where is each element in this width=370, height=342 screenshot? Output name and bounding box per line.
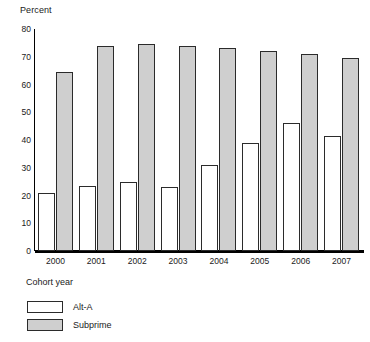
y-tick-label: 30	[9, 163, 31, 173]
x-tick-label-2001: 2001	[76, 256, 117, 270]
bar-group-2001	[76, 29, 117, 251]
bar-alt-a-2007[interactable]	[324, 136, 341, 251]
y-tick-label: 80	[9, 24, 31, 34]
legend-label: Alt-A	[73, 302, 93, 312]
bar-subprime-2005[interactable]	[260, 51, 277, 251]
bar-group-2000	[35, 29, 76, 251]
bar-subprime-2001[interactable]	[97, 46, 114, 251]
legend-item-subprime[interactable]: Subprime	[27, 317, 112, 333]
y-tick-label: 10	[9, 218, 31, 228]
bar-group-2007	[321, 29, 362, 251]
bar-subprime-2002[interactable]	[138, 44, 155, 251]
y-tick-label: 50	[9, 107, 31, 117]
x-axis-ticks: 20002001200220032004200520062007	[35, 256, 362, 270]
bar-group-2004	[199, 29, 240, 251]
bar-subprime-2000[interactable]	[56, 72, 73, 251]
bar-groups	[35, 29, 362, 251]
y-tick-label: 70	[9, 52, 31, 62]
bar-group-2003	[158, 29, 199, 251]
bar-subprime-2004[interactable]	[219, 48, 236, 251]
bar-alt-a-2004[interactable]	[201, 165, 218, 251]
legend-swatch-alt-a	[27, 301, 63, 313]
x-tick-label-2004: 2004	[199, 256, 240, 270]
bar-alt-a-2001[interactable]	[79, 186, 96, 251]
bar-subprime-2007[interactable]	[342, 58, 359, 251]
legend-swatch-subprime	[27, 319, 63, 331]
legend-label: Subprime	[73, 320, 112, 330]
x-tick-label-2006: 2006	[280, 256, 321, 270]
bar-alt-a-2006[interactable]	[283, 123, 300, 251]
y-tick-label: 60	[9, 80, 31, 90]
x-tick-label-2002: 2002	[117, 256, 158, 270]
x-axis-title: Cohort year	[26, 277, 73, 287]
legend-item-alt-a[interactable]: Alt-A	[27, 299, 112, 315]
bar-group-2002	[117, 29, 158, 251]
y-tick-label: 40	[9, 135, 31, 145]
bar-alt-a-2003[interactable]	[161, 187, 178, 251]
bar-alt-a-2002[interactable]	[120, 182, 137, 251]
y-axis-title: Percent	[20, 5, 52, 15]
x-tick-label-2005: 2005	[239, 256, 280, 270]
x-tick-label-2000: 2000	[35, 256, 76, 270]
bar-alt-a-2005[interactable]	[242, 143, 259, 251]
bar-subprime-2006[interactable]	[301, 54, 318, 251]
bar-group-2006	[280, 29, 321, 251]
plot-area: 01020304050607080	[35, 29, 362, 251]
x-tick-label-2007: 2007	[321, 256, 362, 270]
bar-chart-figure: Percent 01020304050607080 20002001200220…	[0, 0, 370, 342]
chart-legend: Alt-ASubprime	[27, 299, 112, 335]
bar-alt-a-2000[interactable]	[38, 193, 55, 251]
x-tick-label-2003: 2003	[158, 256, 199, 270]
y-tick-label: 20	[9, 191, 31, 201]
bar-group-2005	[239, 29, 280, 251]
bar-subprime-2003[interactable]	[179, 46, 196, 251]
y-tick-label: 0	[9, 246, 31, 256]
